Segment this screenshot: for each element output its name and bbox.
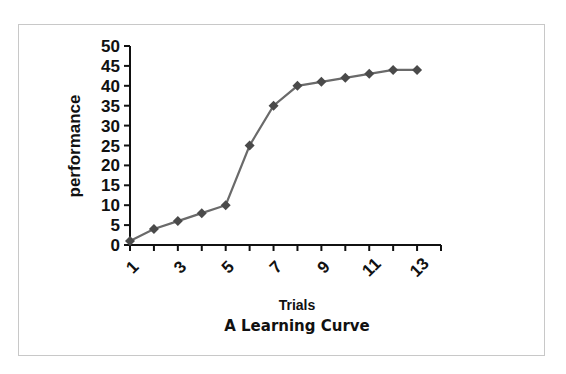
- data-point-marker: [221, 200, 231, 210]
- data-point-marker: [149, 224, 159, 234]
- data-point-marker: [173, 216, 183, 226]
- y-axis-label: performance: [65, 95, 84, 198]
- data-point-marker: [340, 73, 350, 83]
- x-tick-label: 3: [170, 257, 190, 277]
- chart-title: A Learning Curve: [224, 317, 370, 335]
- data-point-marker: [412, 65, 422, 75]
- y-tick-label: 0: [111, 236, 120, 255]
- y-tick-label: 20: [101, 156, 120, 175]
- x-tick-label: 9: [314, 257, 334, 277]
- x-tick-label: 7: [266, 257, 286, 277]
- x-tick-label: 5: [218, 257, 238, 277]
- y-tick-label: 15: [101, 176, 120, 195]
- y-tick-label: 25: [101, 137, 120, 156]
- data-point-marker: [245, 141, 255, 151]
- x-axis-label: Trials: [279, 297, 316, 313]
- data-point-marker: [197, 208, 207, 218]
- x-tick-label: 13: [406, 254, 433, 281]
- series-line: [130, 70, 417, 241]
- y-axis: 05101520253035404550: [101, 37, 130, 255]
- y-tick-label: 10: [101, 196, 120, 215]
- line-chart: 05101520253035404550 135791113 performan…: [0, 0, 566, 374]
- series-performance: [125, 65, 422, 246]
- y-tick-label: 30: [101, 117, 120, 136]
- data-point-marker: [364, 69, 374, 79]
- y-tick-label: 45: [101, 57, 120, 76]
- x-tick-label: 11: [359, 254, 385, 280]
- data-point-marker: [316, 77, 326, 87]
- data-point-marker: [388, 65, 398, 75]
- y-tick-label: 5: [111, 216, 120, 235]
- y-tick-label: 35: [101, 97, 120, 116]
- x-axis: 135791113: [122, 245, 441, 281]
- y-tick-label: 40: [101, 77, 120, 96]
- x-tick-label: 1: [122, 257, 142, 277]
- y-tick-label: 50: [101, 37, 120, 56]
